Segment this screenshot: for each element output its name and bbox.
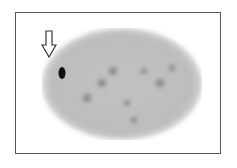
organ-silhouette	[42, 28, 202, 140]
scan-image	[42, 28, 202, 140]
hotspot	[59, 67, 66, 79]
image-frame	[15, 12, 221, 154]
down-arrow-icon	[41, 30, 57, 58]
